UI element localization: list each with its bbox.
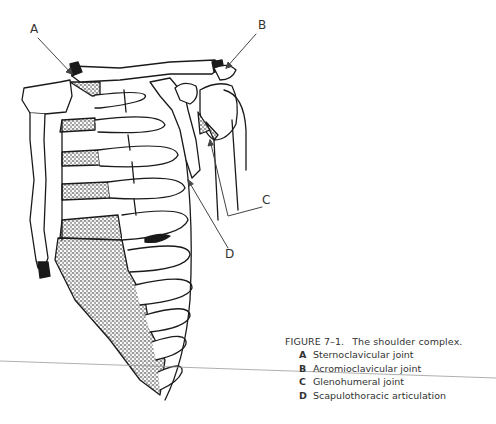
figure-title: The shoulder complex.: [352, 336, 462, 347]
figure-legend: ASternoclavicular joint BAcromioclavicul…: [299, 348, 462, 402]
legend-item: DScapulothoracic articulation: [299, 389, 462, 403]
shoulder-complex-figure: A B C D FIGURE 7–1.The shoulder complex.…: [0, 0, 496, 424]
figure-caption: FIGURE 7–1.The shoulder complex. ASterno…: [285, 336, 462, 402]
legend-text: Sternoclavicular joint: [313, 349, 414, 360]
legend-key: A: [299, 348, 313, 362]
legend-text: Scapulothoracic articulation: [313, 390, 446, 401]
legend-key: D: [299, 389, 313, 403]
legend-item: BAcromioclavicular joint: [299, 362, 462, 376]
legend-item: ASternoclavicular joint: [299, 348, 462, 362]
caption-title: FIGURE 7–1.The shoulder complex.: [285, 336, 462, 347]
legend-text: Acromioclavicular joint: [313, 363, 421, 374]
legend-item: CGlenohumeral joint: [299, 375, 462, 389]
legend-key: B: [299, 362, 313, 376]
legend-text: Glenohumeral joint: [313, 376, 404, 387]
figure-number: FIGURE 7–1.: [285, 336, 344, 347]
legend-key: C: [299, 375, 313, 389]
